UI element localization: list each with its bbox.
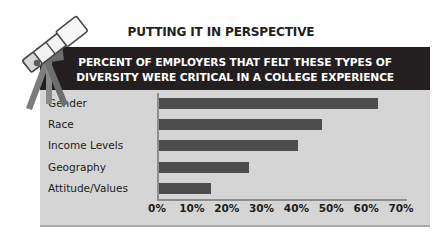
chart-title-line-1: PERCENT OF EMPLOYERS THAT FELT THESE TYP… <box>78 55 392 70</box>
x-tick-label: 60% <box>354 202 379 214</box>
x-axis-tick-labels: 0% 10% 20% 30% 40% 50% 60% 70% <box>157 202 409 220</box>
telescope-icon <box>6 4 118 116</box>
bar-race <box>159 119 323 130</box>
infographic-figure: PUTTING IT IN PERSPECTIVE <box>0 0 442 244</box>
chart-title-line-2: DIVERSITY WERE CRITICAL IN A COLLEGE EXP… <box>76 70 394 85</box>
x-tick-label: 0% <box>148 202 166 214</box>
bar-row <box>157 114 407 135</box>
bar-income-levels <box>159 140 298 151</box>
bar-row <box>157 157 407 178</box>
category-label: Attitude/Values <box>48 178 156 199</box>
x-tick-label: 50% <box>319 202 344 214</box>
x-axis-line <box>157 199 407 201</box>
x-tick-label: 10% <box>179 202 204 214</box>
x-tick-label: 30% <box>249 202 274 214</box>
category-label: Geography <box>48 157 156 178</box>
category-label: Income Levels <box>48 135 156 156</box>
bar-row <box>157 135 407 156</box>
x-tick-label: 20% <box>214 202 239 214</box>
bar-attitude-values <box>159 183 211 194</box>
x-tick-label: 70% <box>388 202 413 214</box>
bar-row <box>157 178 407 199</box>
bar-row <box>157 93 407 114</box>
telescope-tube <box>21 16 88 74</box>
x-tick-label: 40% <box>284 202 309 214</box>
bars-region <box>157 93 409 199</box>
category-label: Race <box>48 114 156 135</box>
bar-gender <box>159 98 379 109</box>
bar-geography <box>159 162 250 173</box>
